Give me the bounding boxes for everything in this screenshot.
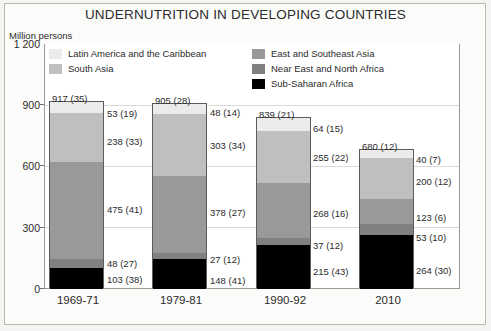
y-tick-label-300: 300: [22, 222, 40, 234]
x-tick-label-1969-71: 1969-71: [33, 294, 123, 306]
legend-swatch-south-asia: [49, 64, 62, 74]
bar-1990-92[interactable]: [256, 117, 311, 288]
chart-title: UNDERNUTRITION IN DEVELOPING COUNTRIES: [0, 7, 491, 22]
value-label-south-asia-2: 303 (34): [210, 140, 245, 151]
y-tick-label-600: 600: [22, 160, 40, 172]
value-label-latin-america-4: 40 (7): [416, 154, 441, 165]
y-tick-label-900: 900: [22, 99, 40, 111]
segment-south-asia-4: [360, 158, 413, 199]
segment-south-asia-1: [50, 113, 103, 162]
value-label-east-southeast-asia-2: 378 (27): [210, 207, 245, 218]
x-tick-label-1979-81: 1979-81: [136, 294, 226, 306]
legend-item-south-asia[interactable]: South Asia: [49, 62, 206, 75]
legend-label-near-east-north-africa: Near East and North Africa: [271, 63, 384, 74]
legend-swatch-east-southeast-asia: [252, 49, 265, 59]
value-label-near-east-north-africa-3: 37 (12): [313, 240, 343, 251]
value-label-near-east-north-africa-4: 53 (10): [416, 232, 446, 243]
value-label-south-asia-3: 255 (22): [313, 152, 348, 163]
legend-item-sub-saharan-africa[interactable]: Sub-Saharan Africa: [252, 77, 384, 90]
value-label-latin-america-1: 53 (19): [107, 108, 137, 119]
segment-east-southeast-asia-3: [257, 183, 310, 238]
legend-label-east-southeast-asia: East and Southeast Asia: [271, 48, 375, 59]
segment-east-southeast-asia-2: [153, 176, 206, 253]
segment-near-east-north-africa-3: [257, 238, 310, 245]
bar-total-label-1969-71: 917 (35): [52, 93, 87, 104]
legend-swatch-latin-america: [49, 49, 62, 59]
value-label-sub-saharan-africa-4: 264 (30): [416, 265, 451, 276]
segment-south-asia-3: [257, 131, 310, 183]
legend-column-right: East and Southeast Asia Near East and No…: [252, 47, 384, 92]
value-label-south-asia-4: 200 (12): [416, 176, 451, 187]
bar-total-label-2010: 680 (12): [362, 141, 397, 152]
value-label-east-southeast-asia-4: 123 (6): [416, 212, 446, 223]
bar-1969-71[interactable]: [49, 101, 104, 288]
bar-total-label-1990-92: 839 (21): [259, 109, 294, 120]
segment-south-asia-2: [153, 114, 206, 176]
bar-2010[interactable]: [359, 149, 414, 288]
value-label-south-asia-1: 238 (33): [107, 136, 142, 147]
value-label-latin-america-2: 48 (14): [210, 107, 240, 118]
legend-label-sub-saharan-africa: Sub-Saharan Africa: [271, 78, 353, 89]
value-label-east-southeast-asia-3: 268 (16): [313, 208, 348, 219]
segment-near-east-north-africa-1: [50, 259, 103, 268]
legend-item-latin-america[interactable]: Latin America and the Caribbean: [49, 47, 206, 60]
y-tick-label-1200: 1 200: [14, 38, 40, 50]
value-label-near-east-north-africa-1: 48 (27): [107, 258, 137, 269]
legend-label-south-asia: South Asia: [68, 63, 113, 74]
segment-near-east-north-africa-4: [360, 224, 413, 235]
gridline-900: [45, 105, 459, 106]
segment-sub-saharan-africa-4: [360, 235, 413, 289]
bar-1979-81[interactable]: [152, 103, 207, 288]
chart-page: UNDERNUTRITION IN DEVELOPING COUNTRIES M…: [0, 0, 491, 331]
value-label-sub-saharan-africa-2: 148 (41): [210, 275, 245, 286]
value-label-latin-america-3: 64 (15): [313, 123, 343, 134]
legend-label-latin-america: Latin America and the Caribbean: [68, 48, 206, 59]
value-label-sub-saharan-africa-3: 215 (43): [313, 266, 348, 277]
segment-east-southeast-asia-1: [50, 162, 103, 259]
segment-sub-saharan-africa-3: [257, 245, 310, 289]
x-tick-label-1990-92: 1990-92: [240, 294, 330, 306]
legend-swatch-near-east-north-africa: [252, 64, 265, 74]
segment-sub-saharan-africa-1: [50, 268, 103, 289]
bar-total-label-1979-81: 905 (28): [155, 95, 190, 106]
legend-item-near-east-north-africa[interactable]: Near East and North Africa: [252, 62, 384, 75]
value-label-sub-saharan-africa-1: 103 (38): [107, 274, 142, 285]
x-tick-label-2010: 2010: [343, 294, 433, 306]
legend-swatch-sub-saharan-africa: [252, 79, 265, 89]
value-label-near-east-north-africa-2: 27 (12): [210, 254, 240, 265]
segment-east-southeast-asia-4: [360, 199, 413, 224]
legend: Latin America and the Caribbean South As…: [49, 47, 404, 91]
value-label-east-southeast-asia-1: 475 (41): [107, 204, 142, 215]
legend-item-east-southeast-asia[interactable]: East and Southeast Asia: [252, 47, 384, 60]
legend-column-left: Latin America and the Caribbean South As…: [49, 47, 206, 77]
segment-sub-saharan-africa-2: [153, 259, 206, 289]
